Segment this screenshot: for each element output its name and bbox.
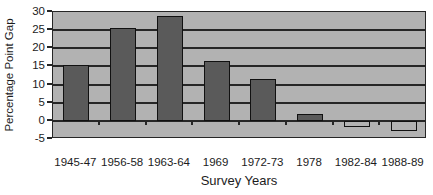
x-tick-mark [238, 120, 240, 125]
y-tick-label-30: 30 [11, 5, 45, 17]
x-tick-label-1988-89: 1988-89 [372, 156, 433, 169]
y-tick-label--5: -5 [11, 132, 45, 144]
y-tick-label-10: 10 [11, 78, 45, 90]
bar-1969 [204, 61, 230, 121]
bar-1988-89 [391, 121, 417, 131]
bar-1956-58 [110, 28, 136, 121]
y-tick-label-15: 15 [11, 59, 45, 71]
bar-1982-84 [344, 121, 370, 128]
bar-1972-73 [250, 79, 276, 121]
y-tick-label-25: 25 [11, 23, 45, 35]
y-tick-label-0: 0 [11, 114, 45, 126]
y-tick-label-20: 20 [11, 41, 45, 53]
gridline-y-5 [53, 102, 425, 104]
x-axis-title: Survey Years [52, 173, 426, 188]
x-tick-mark [285, 120, 287, 125]
y-tick-label-5: 5 [11, 96, 45, 108]
bar-1963-64 [157, 16, 183, 121]
gridline-y-20 [53, 47, 425, 49]
x-tick-mark [98, 120, 100, 125]
x-tick-mark [145, 120, 147, 125]
gridline-y-25 [53, 29, 425, 31]
x-tick-mark [332, 120, 334, 125]
x-tick-mark [191, 120, 193, 125]
gridline-y-10 [53, 84, 425, 86]
bar-1978 [297, 114, 323, 121]
bar-1945-47 [63, 65, 89, 121]
bar-chart: Percentage Point Gap 302520151050-5 1945… [0, 0, 433, 195]
gridline-y-15 [53, 65, 425, 67]
x-tick-mark [378, 120, 380, 125]
